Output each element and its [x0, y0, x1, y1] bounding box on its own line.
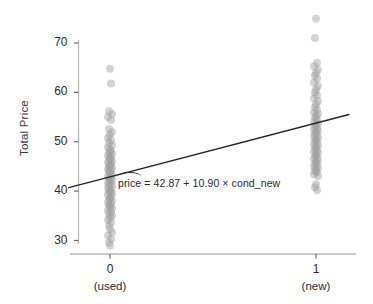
hat-accent-icon — [118, 172, 141, 177]
equation-body: = 42.87 + 10.90 × cond_new — [141, 177, 280, 189]
y-tick-label-30: 30 — [38, 233, 68, 247]
data-points-group — [104, 15, 322, 250]
regression-equation-annotation: price = 42.87 + 10.90 × cond_new — [118, 176, 280, 189]
equation-hatted-term: price — [118, 176, 141, 189]
data-point — [106, 65, 114, 73]
series-1-points — [104, 65, 116, 250]
x-tick-sublabel-1: (new) — [281, 280, 351, 292]
data-point — [107, 116, 115, 124]
data-point — [314, 172, 322, 180]
x-tick-label-0: 0 — [90, 262, 130, 276]
data-point — [311, 34, 319, 42]
data-point — [313, 186, 321, 194]
y-tick-label-40: 40 — [38, 183, 68, 197]
scatter-plot-figure: Total Price 3040506070 0(used)1(new) pri… — [0, 0, 373, 304]
data-point — [312, 15, 320, 23]
y-tick-label-60: 60 — [38, 84, 68, 98]
equation-response-label: price — [118, 177, 141, 189]
y-axis-title: Total Price — [18, 88, 30, 168]
y-tick-label-50: 50 — [38, 134, 68, 148]
y-tick-label-70: 70 — [38, 35, 68, 49]
series-2-points — [310, 15, 322, 194]
data-point — [106, 241, 114, 249]
data-point — [107, 79, 115, 87]
x-tick-sublabel-0: (used) — [75, 280, 145, 292]
x-tick-label-1: 1 — [296, 262, 336, 276]
